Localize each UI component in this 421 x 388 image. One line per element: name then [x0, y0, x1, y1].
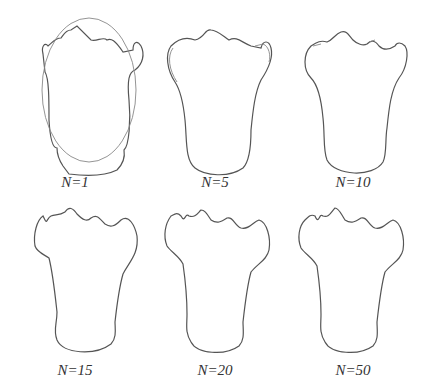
- panel-n5: N=5: [145, 0, 285, 194]
- contour-n10: [283, 0, 421, 194]
- panel-label: N=15: [5, 362, 145, 379]
- panel-n10: N=10: [283, 0, 421, 194]
- panel-label: N=5: [145, 174, 285, 191]
- contour-n20: [145, 194, 285, 388]
- contour-n1: [5, 0, 145, 194]
- panel-label: N=1: [5, 174, 145, 191]
- contour-n5: [145, 0, 285, 194]
- panel-n15: N=15: [5, 194, 145, 388]
- contour-n15: [5, 194, 145, 388]
- contour-n50: [283, 194, 421, 388]
- panel-label: N=20: [145, 362, 285, 379]
- panel-n50: N=50: [283, 194, 421, 388]
- panel-label: N=10: [283, 174, 421, 191]
- panel-n20: N=20: [145, 194, 285, 388]
- panel-label: N=50: [283, 362, 421, 379]
- panel-n1: N=1: [5, 0, 145, 194]
